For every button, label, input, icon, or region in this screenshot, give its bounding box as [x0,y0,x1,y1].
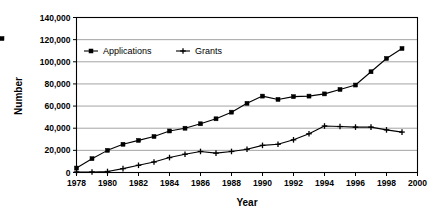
legend-marker-square [89,49,93,53]
data-point-marker [369,70,373,74]
line-chart: 020,00040,00060,00080,000100,000120,0001… [0,0,439,218]
x-tick-label: 1982 [129,178,148,188]
x-tick-label: 1986 [191,178,210,188]
data-point-marker [245,101,249,105]
data-point-marker [338,87,342,91]
x-tick-label: 1984 [160,178,179,188]
data-point-marker [323,92,327,96]
y-axis-title: Number [13,77,24,115]
y-tick-label: 140,000 [40,13,71,23]
data-point-marker [261,94,265,98]
x-tick-label: 1988 [222,178,241,188]
data-point-marker [230,110,234,114]
data-point-marker [214,117,218,121]
x-tick-label: 1996 [346,178,365,188]
data-point-marker [121,142,125,146]
x-tick-label: 1990 [253,178,272,188]
data-point-marker [106,148,110,152]
data-point-marker [0,37,4,41]
data-point-marker [168,129,172,133]
x-tick-label: 1998 [377,178,396,188]
x-tick-label: 1994 [315,178,334,188]
data-point-marker [199,122,203,126]
y-tick-label: 60,000 [45,101,71,111]
data-point-marker [152,135,156,139]
chart-canvas: 020,00040,00060,00080,000100,000120,0001… [0,0,439,218]
data-point-marker [354,83,358,87]
data-point-marker [183,126,187,130]
data-point-marker [385,56,389,60]
y-tick-label: 80,000 [45,79,71,89]
data-point-marker [276,97,280,101]
legend-label: Applications [103,46,152,56]
y-tick-label: 40,000 [45,123,71,133]
data-point-marker [137,138,141,142]
y-tick-label: 0 [66,168,71,178]
y-tick-label: 100,000 [40,57,71,67]
x-tick-label: 1978 [67,178,86,188]
x-axis-title: Year [236,197,257,208]
legend-label: Grants [195,46,223,56]
x-tick-label: 1980 [98,178,117,188]
x-tick-label: 1992 [284,178,303,188]
data-point-marker [90,157,94,161]
data-point-marker [292,95,296,99]
x-tick-label: 2000 [408,178,427,188]
y-tick-label: 20,000 [45,145,71,155]
data-point-marker [307,94,311,98]
y-tick-label: 120,000 [40,35,71,45]
data-point-marker [400,47,404,51]
